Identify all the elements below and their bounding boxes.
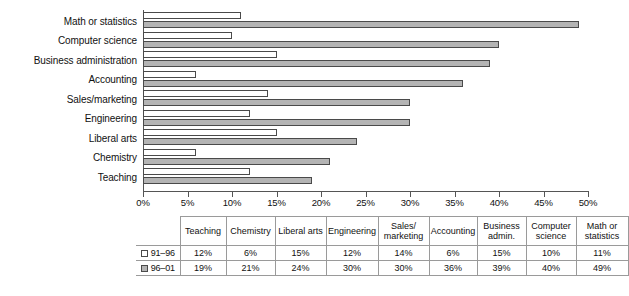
bar-1 — [143, 41, 499, 48]
table-cell: 11% — [576, 246, 628, 261]
y-axis-category-label: Engineering — [85, 113, 137, 124]
table-corner-cell — [136, 217, 180, 246]
x-axis-tick-label: 35% — [445, 197, 463, 208]
table-cell: 14% — [378, 246, 429, 261]
table-cell: 40% — [526, 261, 576, 276]
x-axis-tick-label: 20% — [312, 197, 330, 208]
bar-0 — [143, 168, 250, 175]
x-axis-tick-label: 5% — [181, 197, 194, 208]
table-cell: 15% — [275, 246, 326, 261]
bar-0 — [143, 51, 277, 58]
legend-label-text: 96–01 — [151, 263, 175, 273]
bar-1 — [143, 177, 312, 184]
table-cell: 21% — [226, 261, 275, 276]
x-axis-tick-label: 10% — [223, 197, 241, 208]
table-body: 91–9612%6%15%12%14%6%15%10%11%96–0119%21… — [136, 246, 628, 276]
y-axis-category-label: Teaching — [98, 172, 137, 183]
table-column-header: Sales/marketing — [378, 217, 429, 246]
table-cell: 15% — [477, 246, 526, 261]
data-table-container: TeachingChemistryLiberal artsEngineering… — [136, 216, 588, 276]
table-cell: 24% — [275, 261, 326, 276]
table-cell: 30% — [326, 261, 378, 276]
table-head: TeachingChemistryLiberal artsEngineering… — [136, 217, 628, 246]
table-cell: 12% — [326, 246, 378, 261]
table-header-row: TeachingChemistryLiberal artsEngineering… — [136, 217, 628, 246]
bar-0 — [143, 32, 232, 39]
bar-0 — [143, 12, 241, 19]
table-column-header: Math orstatistics — [576, 217, 628, 246]
table-column-header: Engineering — [326, 217, 378, 246]
table-cell: 30% — [378, 261, 429, 276]
bar-chart: 0%5%10%15%20%25%30%35%40%45%50%Math or s… — [0, 0, 621, 210]
bar-1 — [143, 99, 410, 106]
data-table: TeachingChemistryLiberal artsEngineering… — [136, 216, 629, 276]
bar-1 — [143, 21, 579, 28]
bar-1 — [143, 60, 490, 67]
legend-row-label: 91–96 — [136, 246, 180, 261]
x-axis-tick-label: 0% — [136, 197, 149, 208]
bar-1 — [143, 138, 357, 145]
x-axis-tick-label: 30% — [401, 197, 419, 208]
legend-label-text: 91–96 — [151, 248, 175, 258]
bar-0 — [143, 129, 277, 136]
table-cell: 39% — [477, 261, 526, 276]
x-axis-tick-label: 45% — [534, 197, 552, 208]
y-axis-category-label: Accounting — [89, 74, 137, 85]
bar-1 — [143, 158, 330, 165]
table-cell: 36% — [429, 261, 477, 276]
y-axis-category-label: Liberal arts — [89, 133, 137, 144]
y-axis-category-label: Computer science — [58, 35, 137, 46]
white-square-icon — [141, 250, 148, 257]
y-axis-category-label: Business administration — [34, 55, 137, 66]
table-row: 91–9612%6%15%12%14%6%15%10%11% — [136, 246, 628, 261]
table-cell: 6% — [429, 246, 477, 261]
bar-0 — [143, 71, 196, 78]
table-cell: 49% — [576, 261, 628, 276]
y-axis-category-label: Sales/marketing — [67, 94, 137, 105]
table-cell: 19% — [180, 261, 226, 276]
table-cell: 10% — [526, 246, 576, 261]
bar-0 — [143, 149, 196, 156]
y-axis-category-label: Math or statistics — [64, 16, 137, 27]
table-column-header: Chemistry — [226, 217, 275, 246]
x-axis-tick-label: 25% — [356, 197, 374, 208]
table-cell: 12% — [180, 246, 226, 261]
x-axis-tick-label: 40% — [490, 197, 508, 208]
bar-0 — [143, 110, 250, 117]
table-column-header: Businessadmin. — [477, 217, 526, 246]
gray-square-icon — [141, 265, 148, 272]
bar-1 — [143, 80, 463, 87]
table-column-header: Computerscience — [526, 217, 576, 246]
x-axis-tick-label: 50% — [579, 197, 597, 208]
y-axis-category-label: Chemistry — [93, 152, 137, 163]
legend-row-label: 96–01 — [136, 261, 180, 276]
table-row: 96–0119%21%24%30%30%36%39%40%49% — [136, 261, 628, 276]
bar-0 — [143, 90, 268, 97]
x-axis-tick-label: 15% — [267, 197, 285, 208]
table-column-header: Liberal arts — [275, 217, 326, 246]
table-column-header: Teaching — [180, 217, 226, 246]
bar-1 — [143, 119, 410, 126]
table-cell: 6% — [226, 246, 275, 261]
table-column-header: Accounting — [429, 217, 477, 246]
